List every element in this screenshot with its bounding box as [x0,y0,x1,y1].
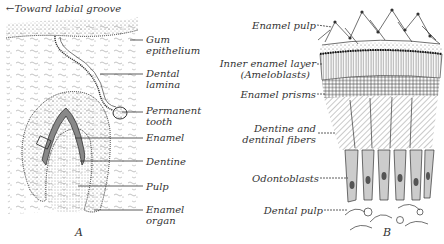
panel-a-letter: A [75,226,83,239]
diagram-artwork [0,0,444,244]
dentine-label: Dentine [146,156,186,167]
dental-lamina-label-1: Dental [146,68,180,79]
enamel-organ-label-2: organ [146,215,176,226]
inner-enamel-layer-label: Inner enamel layer [220,58,316,69]
dentine-fibers-label-2: dentinal fibers [242,134,316,145]
dental-lamina-label-2: lamina [146,79,180,90]
panel-b-artwork [318,8,442,230]
enamel-prisms-label: Enamel prisms [240,89,316,100]
tooth-development-diagram: ←Toward labial groove Gum epithelium Den… [0,0,444,244]
enamel-organ-label-1: Enamel [146,204,184,215]
permanent-tooth-label-1: Permanent [146,105,201,116]
gum-epithelium-label-1: Gum [146,34,170,45]
odontoblasts-label: Odontoblasts [252,173,319,184]
permanent-tooth-label-2: tooth [146,116,173,127]
ameloblasts-label: (Ameloblasts) [241,69,311,80]
enamel-pulp-label: Enamel pulp [252,20,316,31]
toward-labial-groove-label: ←Toward labial groove [6,3,121,14]
dental-pulp-label: Dental pulp [264,205,323,216]
gum-epithelium-label-2: epithelium [146,45,200,56]
dentine-fibers-label-1: Dentine and [254,123,316,134]
enamel-label: Enamel [146,132,184,143]
panel-a-artwork [6,17,138,214]
pulp-label: Pulp [146,181,169,192]
panel-b-letter: B [383,226,391,239]
